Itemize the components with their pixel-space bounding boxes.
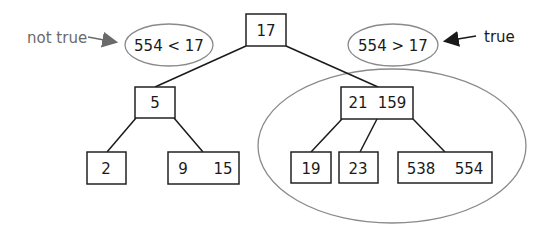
edge-left-leftleft bbox=[107, 118, 136, 152]
edge-right-c bbox=[413, 119, 445, 152]
node-leaf-2: 2 bbox=[87, 152, 126, 184]
b-tree-diagram: 17 5 21 159 2 9 15 19 23 538 554 554 < 1… bbox=[0, 0, 553, 237]
edge-left-leftright bbox=[174, 118, 203, 152]
node-right-key-1: 159 bbox=[378, 94, 407, 112]
node-leaf-19: 19 bbox=[291, 152, 331, 183]
node-root: 17 bbox=[246, 14, 286, 46]
annotation-true: true bbox=[484, 28, 515, 46]
node-leaf-2-key-0: 2 bbox=[101, 160, 111, 178]
arrow-left-icon bbox=[446, 36, 476, 41]
node-leaf-9-15: 9 15 bbox=[168, 152, 239, 184]
edge-right-b bbox=[360, 119, 377, 152]
node-left-key-0: 5 bbox=[150, 94, 160, 112]
node-leaf-9-15-key-0: 9 bbox=[178, 160, 188, 178]
comparison-left-text: 554 < 17 bbox=[134, 37, 204, 55]
node-leaf-9-15-key-1: 15 bbox=[213, 160, 232, 178]
node-right-key-0: 21 bbox=[348, 94, 367, 112]
node-leaf-538-554-key-0: 538 bbox=[407, 160, 436, 178]
edge-right-a bbox=[311, 119, 342, 152]
arrow-right-icon bbox=[88, 37, 115, 42]
node-leaf-23-key-0: 23 bbox=[348, 160, 367, 178]
node-leaf-538-554-key-1: 554 bbox=[455, 160, 484, 178]
node-leaf-538-554: 538 554 bbox=[398, 152, 492, 183]
node-leaf-19-key-0: 19 bbox=[301, 160, 320, 178]
node-root-key-0: 17 bbox=[256, 22, 275, 40]
annotation-not-true: not true bbox=[27, 29, 87, 47]
comparison-right-text: 554 > 17 bbox=[358, 37, 428, 55]
node-leaf-23: 23 bbox=[339, 152, 378, 183]
node-left: 5 bbox=[135, 87, 175, 118]
node-right: 21 159 bbox=[341, 87, 413, 119]
